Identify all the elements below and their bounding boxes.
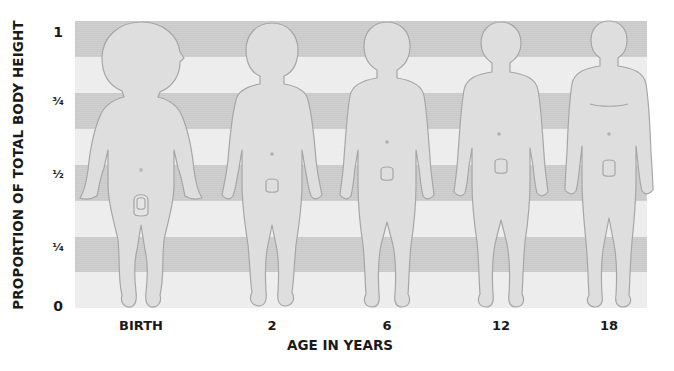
x-tick-birth: BIRTH	[119, 318, 163, 333]
x-tick-6: 6	[382, 318, 391, 333]
y-axis-label: PROPORTION OF TOTAL BODY HEIGHT	[10, 20, 26, 309]
x-tick-2: 2	[267, 318, 276, 333]
y-tick-1: 1	[53, 24, 63, 40]
y-tick-0: 0	[53, 298, 63, 314]
y-tick-quarter: ¹⁄₄	[52, 241, 63, 254]
y-tick-half: ¹⁄₂	[52, 168, 63, 181]
body-proportion-diagram	[0, 0, 674, 371]
x-tick-12: 12	[492, 318, 510, 333]
x-tick-18: 18	[600, 318, 618, 333]
x-axis-label: AGE IN YEARS	[287, 337, 393, 353]
y-tick-three-quarters: ³⁄₄	[52, 95, 63, 108]
